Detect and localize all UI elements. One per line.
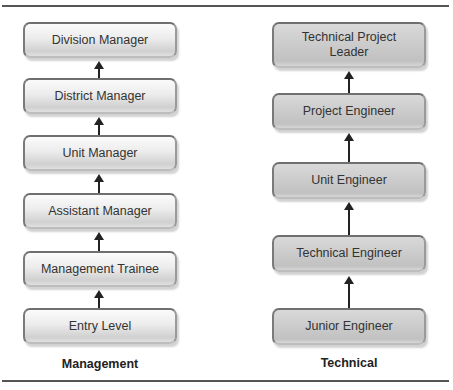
box-label: Technical Engineer <box>296 246 402 261</box>
arrow-up-icon <box>344 71 354 93</box>
box-unit-engineer: Unit Engineer <box>272 162 426 199</box>
arrow-up-icon <box>344 133 354 162</box>
box-management-trainee: Management Trainee <box>23 251 177 287</box>
box-district-manager: District Manager <box>23 78 177 114</box>
box-label: Junior Engineer <box>305 319 393 334</box>
top-rule <box>2 5 449 7</box>
arrow-up-icon <box>94 174 104 193</box>
box-label: Technical Project Leader <box>294 30 404 60</box>
box-label: District Manager <box>55 89 146 104</box>
box-label: Entry Level <box>69 319 132 334</box>
box-unit-manager: Unit Manager <box>23 135 177 171</box>
box-label: Unit Engineer <box>311 173 387 188</box>
box-label: Unit Manager <box>62 146 137 161</box>
box-technical-engineer: Technical Engineer <box>272 235 426 272</box>
box-label: Assistant Manager <box>48 204 152 219</box>
box-assistant-manager: Assistant Manager <box>23 193 177 229</box>
box-project-engineer: Project Engineer <box>272 93 426 130</box>
arrow-up-icon <box>94 232 104 251</box>
box-entry-level: Entry Level <box>23 308 177 344</box>
arrow-up-icon <box>344 276 354 308</box>
arrow-up-icon <box>344 202 354 235</box>
arrow-up-icon <box>94 117 104 135</box>
box-junior-engineer: Junior Engineer <box>272 308 426 345</box>
box-label: Division Manager <box>52 33 149 48</box>
column-label-technical: Technical <box>272 356 426 370</box>
box-label: Project Engineer <box>303 104 395 119</box>
column-label-management: Management <box>23 357 177 371</box>
box-division-manager: Division Manager <box>23 22 177 58</box>
box-technical-project-leader: Technical Project Leader <box>272 22 426 68</box>
arrow-up-icon <box>94 61 104 78</box>
box-label: Management Trainee <box>41 262 159 277</box>
arrow-up-icon <box>94 290 104 308</box>
bottom-rule <box>2 380 449 382</box>
